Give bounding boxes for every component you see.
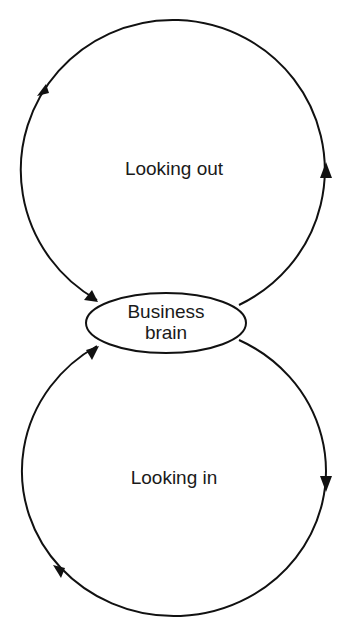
arrow-icon-into-brain-bottom [86,346,99,360]
arrow-icon-bottom-right [320,476,332,492]
looking-out-label: Looking out [118,158,230,180]
business-brain-label-line2: brain [106,322,226,343]
looking-in-label: Looking in [118,467,230,489]
arrow-icon-top-right [320,162,332,178]
business-brain-label-line1: Business [106,301,226,322]
arrow-icon-bottom-left [53,565,65,578]
arrow-icon-into-brain-top [84,290,98,302]
